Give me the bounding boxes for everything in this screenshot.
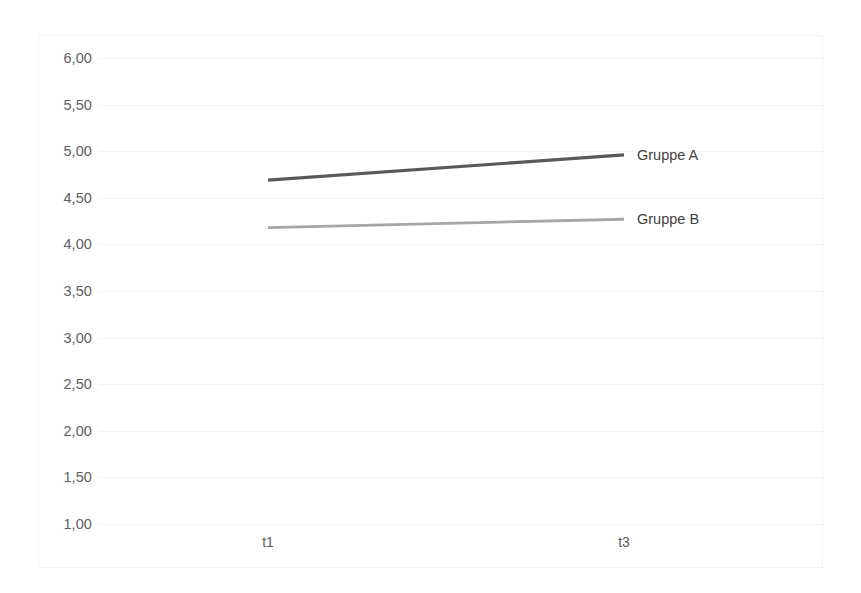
series-label: Gruppe B — [637, 211, 699, 227]
y-axis-tick-label: 2,00 — [34, 423, 92, 439]
y-axis-tick-label: 5,50 — [34, 97, 92, 113]
x-axis-tick-label: t1 — [262, 534, 274, 550]
series-lines — [100, 58, 823, 524]
y-axis-tick-label: 3,50 — [34, 283, 92, 299]
y-axis-tick-label: 6,00 — [34, 50, 92, 66]
y-axis-tick-label: 4,50 — [34, 190, 92, 206]
gridline — [100, 524, 823, 525]
series-label: Gruppe A — [637, 147, 698, 163]
y-axis-tick-label: 4,00 — [34, 236, 92, 252]
y-axis-tick-label: 2,50 — [34, 376, 92, 392]
y-axis-tick-label: 1,50 — [34, 469, 92, 485]
chart-container: 6,005,505,004,504,003,503,002,502,001,50… — [0, 0, 861, 593]
y-axis-tick-label: 1,00 — [34, 516, 92, 532]
series-line — [268, 219, 624, 227]
series-line — [268, 155, 624, 180]
y-axis-tick-label: 3,00 — [34, 330, 92, 346]
y-axis-tick-label: 5,00 — [34, 143, 92, 159]
plot-area — [100, 58, 823, 524]
x-axis-tick-label: t3 — [618, 534, 630, 550]
y-axis: 6,005,505,004,504,003,503,002,502,001,50… — [34, 58, 92, 524]
